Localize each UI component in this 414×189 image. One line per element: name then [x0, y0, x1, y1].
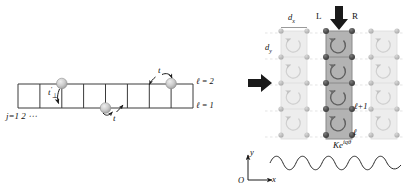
axis-label-y: y — [250, 148, 254, 157]
standing-wave-curve — [270, 156, 401, 170]
chirality-label-left: L — [316, 12, 322, 21]
lattice-column-right — [368, 28, 399, 139]
hopping-arrow-leg-upper-right — [162, 74, 172, 78]
left-ladder-lattice — [18, 74, 193, 116]
hopping-label-upper: t — [158, 66, 161, 75]
rung-index-label-l-plus-1: ℓ+1 — [354, 102, 368, 111]
dy-subscript: y — [269, 48, 272, 54]
coupling-label: Keiqθ — [333, 139, 351, 150]
leg-label-lower: ℓ = 1 — [196, 101, 214, 110]
ladder-site-index-label: j=1 2 ⋯ — [6, 112, 37, 121]
particle-upper-right — [166, 78, 177, 89]
particle-upper-left — [57, 78, 68, 89]
block-arrow-right — [248, 74, 272, 92]
block-arrow-down — [330, 6, 348, 30]
particle-lower-middle — [100, 103, 111, 114]
figure-canvas — [0, 0, 414, 189]
axis-label-x: x — [272, 175, 276, 184]
lattice-column-left — [278, 28, 309, 139]
axis-origin-label: O — [238, 176, 244, 185]
hopping-label-rung: t′⊥ — [48, 86, 58, 99]
coordinate-axes — [248, 155, 272, 180]
spacing-label-dy: dy — [265, 43, 272, 54]
chirality-label-right: R — [352, 12, 358, 21]
perp-subscript: ⊥ — [52, 92, 58, 99]
lattice-column-center-highlighted — [323, 28, 355, 139]
hopping-arrow-leg-upper-left — [150, 77, 156, 85]
spacing-label-dx: dx — [288, 13, 295, 24]
figure-root: j=1 2 ⋯ ℓ = 2 ℓ = 1 t′⊥ t t dx dy L R ℓ+… — [0, 0, 414, 189]
hopping-label-lower: t — [113, 114, 116, 123]
leg-label-upper: ℓ = 2 — [196, 77, 214, 86]
rung-index-label-l: ℓ — [353, 128, 357, 137]
phase-exponent: iqθ — [343, 138, 351, 145]
dx-subscript: x — [292, 18, 295, 24]
right-flux-lattice — [248, 6, 403, 180]
